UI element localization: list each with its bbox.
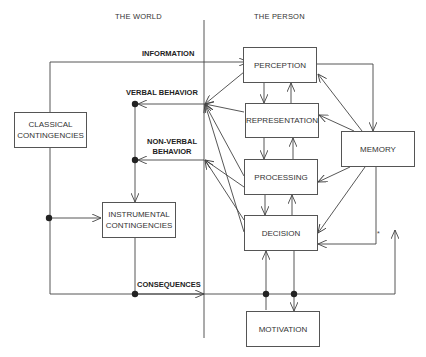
junction-dot bbox=[132, 157, 138, 163]
label-nonverbal-line2: BEHAVIOR bbox=[142, 147, 202, 157]
box-representation: REPRESENTATION bbox=[245, 103, 319, 138]
box-motivation: MOTIVATION bbox=[246, 311, 320, 347]
box-decision: DECISION bbox=[244, 215, 318, 251]
label-verbal-behavior: VERBAL BEHAVIOR bbox=[126, 88, 198, 98]
junction-dot bbox=[263, 291, 269, 297]
junction-dot bbox=[291, 291, 297, 297]
label-information: INFORMATION bbox=[142, 49, 194, 59]
box-instrumental-contingencies: INSTRUMENTAL CONTINGENCIES bbox=[102, 202, 176, 238]
box-classical-contingencies: CLASSICAL CONTINGENCIES bbox=[14, 112, 87, 148]
junction-dot bbox=[132, 291, 138, 297]
label-nonverbal-behavior: NON-VERBAL BEHAVIOR bbox=[142, 137, 202, 157]
label-nonverbal-line1: NON-VERBAL bbox=[142, 137, 202, 147]
junction-dot bbox=[132, 101, 138, 107]
connector-lines bbox=[0, 0, 426, 357]
header-world: THE WORLD bbox=[115, 12, 162, 21]
label-consequences: CONSEQUENCES bbox=[137, 280, 201, 290]
asterisk-mark: * bbox=[377, 230, 380, 237]
header-person: THE PERSON bbox=[254, 12, 305, 21]
box-perception: PERCEPTION bbox=[243, 47, 317, 83]
box-memory: MEMORY bbox=[341, 131, 415, 167]
junction-dot bbox=[46, 215, 52, 221]
box-processing: PROCESSING bbox=[244, 159, 318, 195]
